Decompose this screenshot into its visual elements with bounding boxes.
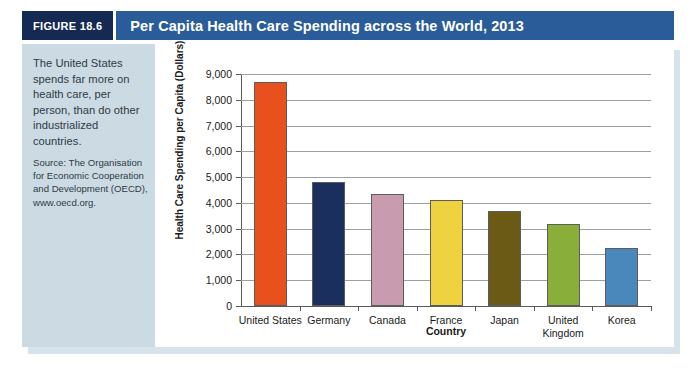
y-axis-tick: [236, 151, 241, 152]
plot-area: 01,0002,0003,0004,0005,0006,0007,0008,00…: [241, 74, 651, 306]
figure-header: FIGURE 18.6 Per Capita Health Care Spend…: [22, 11, 674, 40]
y-axis-label: 3,000: [206, 223, 232, 235]
gridline: [241, 100, 651, 101]
x-axis-tick: [358, 306, 359, 311]
y-axis-label: 6,000: [206, 145, 232, 157]
y-axis-tick: [236, 74, 241, 75]
figure-container: FIGURE 18.6 Per Capita Health Care Spend…: [0, 0, 696, 383]
x-axis-tick: [651, 306, 652, 311]
y-axis-title: Health Care Spending per Capita (Dollars…: [174, 70, 185, 240]
x-axis-tick: [592, 306, 593, 311]
y-axis-label: 5,000: [206, 171, 232, 183]
gridline: [241, 74, 651, 75]
chart-panel: Health Care Spending per Capita (Dollars…: [155, 44, 674, 347]
bar: [371, 194, 404, 306]
figure-number-badge: FIGURE 18.6: [22, 11, 113, 40]
gridline: [241, 177, 651, 178]
y-axis-label: 9,000: [206, 68, 232, 80]
y-axis-label: 2,000: [206, 248, 232, 260]
figure-title: Per Capita Health Care Spending across t…: [116, 11, 524, 40]
y-axis-label: 8,000: [206, 94, 232, 106]
y-axis-tick: [236, 203, 241, 204]
y-axis-tick: [236, 280, 241, 281]
bar: [488, 211, 521, 306]
x-axis-tick: [300, 306, 301, 311]
y-axis-tick: [236, 306, 241, 307]
gridline: [241, 126, 651, 127]
y-axis-label: 1,000: [206, 274, 232, 286]
bar: [312, 182, 345, 306]
caption-text: The United States spends far more on hea…: [33, 56, 145, 149]
bar: [254, 82, 287, 306]
x-axis-tick: [417, 306, 418, 311]
panel-shadow-right: [674, 50, 680, 353]
y-axis-tick: [236, 177, 241, 178]
x-axis-title: Country: [241, 325, 651, 337]
y-axis-label: 0: [226, 300, 232, 312]
bar: [547, 224, 580, 306]
gridline: [241, 151, 651, 152]
x-axis-tick: [534, 306, 535, 311]
bar: [430, 200, 463, 306]
caption-panel: The United States spends far more on hea…: [22, 44, 155, 347]
figure-body: The United States spends far more on hea…: [22, 44, 674, 362]
y-axis-tick: [236, 229, 241, 230]
gridline: [241, 306, 651, 307]
bar-chart: Health Care Spending per Capita (Dollars…: [155, 44, 674, 347]
x-axis-tick: [475, 306, 476, 311]
panel-shadow-bottom: [28, 347, 680, 354]
y-axis-tick: [236, 126, 241, 127]
y-axis-tick: [236, 100, 241, 101]
bar: [605, 248, 638, 306]
y-axis-label: 7,000: [206, 120, 232, 132]
source-text: Source: The Organisation for Economic Co…: [33, 156, 151, 209]
y-axis-line: [241, 74, 242, 306]
y-axis-tick: [236, 254, 241, 255]
y-axis-label: 4,000: [206, 197, 232, 209]
